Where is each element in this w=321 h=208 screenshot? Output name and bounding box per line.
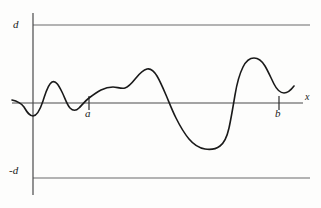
function-graph-figure: d -d a b x [0, 0, 321, 208]
plot-canvas [0, 0, 321, 208]
lower-bound-label: -d [9, 165, 18, 176]
x-tick-label-a: a [85, 108, 91, 119]
x-axis-label: x [305, 92, 309, 102]
upper-bound-label: d [13, 19, 19, 30]
function-curve [12, 58, 294, 149]
x-tick-label-b: b [275, 108, 281, 119]
